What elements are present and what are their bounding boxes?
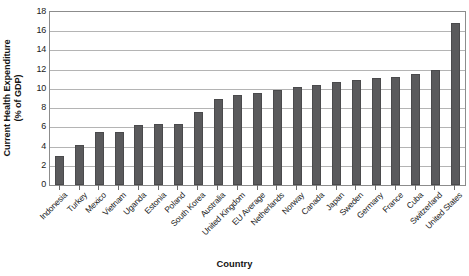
y-axis-tick-labels: 181614121086420 — [24, 0, 46, 195]
bar-slot — [366, 12, 386, 185]
plot-area — [49, 11, 466, 186]
bar-series — [50, 12, 465, 185]
y-axis-tick-label: 10 — [26, 83, 46, 93]
bar — [431, 70, 440, 185]
bar — [253, 93, 262, 185]
bar-slot — [188, 12, 208, 185]
bar-slot — [406, 12, 426, 185]
bar-slot — [287, 12, 307, 185]
bar-slot — [90, 12, 110, 185]
bar — [273, 90, 282, 185]
y-axis-tick-label: 18 — [26, 6, 46, 16]
bar-slot — [169, 12, 189, 185]
bar — [411, 74, 420, 185]
y-axis-title-line2: (% of GDP) — [13, 74, 23, 121]
bar-slot — [327, 12, 347, 185]
y-axis-tick-label: 8 — [26, 102, 46, 112]
bar — [55, 156, 64, 185]
bar-slot — [228, 12, 248, 185]
bar — [134, 125, 143, 185]
y-axis-tick-label: 0 — [26, 179, 46, 189]
y-axis-tick-label: 2 — [26, 160, 46, 170]
y-axis-tick-label: 4 — [26, 141, 46, 151]
y-axis-tick-label: 14 — [26, 44, 46, 54]
bar — [75, 145, 84, 185]
bar — [451, 23, 460, 185]
bar — [95, 132, 104, 185]
bar — [312, 85, 321, 185]
bar — [233, 95, 242, 185]
bar — [214, 99, 223, 186]
bar — [293, 87, 302, 185]
bar-slot — [386, 12, 406, 185]
bar-chart: Current Health Expenditure (% of GDP) 18… — [0, 0, 469, 276]
y-axis-title: Current Health Expenditure (% of GDP) — [0, 0, 26, 195]
x-axis-title: Country — [0, 258, 469, 269]
y-axis-tick-label: 6 — [26, 121, 46, 131]
y-axis-tick-label: 16 — [26, 25, 46, 35]
bar-slot — [129, 12, 149, 185]
y-axis-tick-label: 12 — [26, 64, 46, 74]
bar — [391, 77, 400, 185]
bar-slot — [109, 12, 129, 185]
bar — [174, 124, 183, 186]
bar-slot — [267, 12, 287, 185]
bar — [194, 112, 203, 185]
x-axis-tick-labels: IndonesiaTurkeyMexicoVietnamUgandaEstoni… — [49, 190, 466, 252]
bar-slot — [70, 12, 90, 185]
bar — [372, 78, 381, 185]
bar-slot — [149, 12, 169, 185]
y-axis-title-line1: Current Health Expenditure — [2, 39, 12, 156]
bar — [154, 124, 163, 186]
x-axis-tick-label: France — [380, 190, 405, 215]
bar-slot — [426, 12, 446, 185]
bar-slot — [50, 12, 70, 185]
bar-slot — [346, 12, 366, 185]
bar — [352, 80, 361, 185]
bar-slot — [445, 12, 465, 185]
bar — [332, 82, 341, 185]
bar — [115, 132, 124, 185]
bar-slot — [208, 12, 228, 185]
bar-slot — [307, 12, 327, 185]
bar-slot — [248, 12, 268, 185]
